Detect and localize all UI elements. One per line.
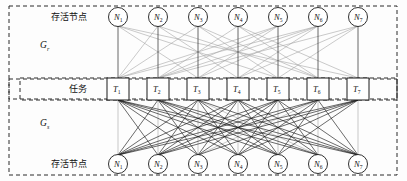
- top-node-6-sub: 6: [320, 17, 323, 23]
- task-box-3[interactable]: T3: [187, 78, 209, 100]
- bottom-node-6-sub: 6: [320, 164, 323, 170]
- top-node-7[interactable]: N7: [349, 8, 368, 27]
- upper-graph-label-sub: r: [47, 46, 50, 52]
- bottom-node-3-sub: 3: [200, 164, 203, 170]
- bottom-row-label: 存活节点: [51, 158, 87, 169]
- task-6-sub: 6: [318, 89, 321, 95]
- task-3-sub: 3: [198, 89, 201, 95]
- bottom-node-1-sub: 1: [120, 164, 123, 170]
- top-node-5-sub: 5: [280, 17, 283, 23]
- bottom-node-5-sub: 5: [280, 164, 283, 170]
- top-node-1-sub: 1: [120, 17, 123, 23]
- top-node-3[interactable]: N3: [189, 8, 208, 27]
- top-node-4[interactable]: N4: [229, 8, 248, 27]
- bottom-node-4-sub: 4: [240, 164, 243, 170]
- top-node-1[interactable]: N1: [109, 8, 128, 27]
- bottom-node-2[interactable]: N2: [149, 155, 168, 174]
- lower-graph-label-sub: s: [47, 124, 50, 130]
- top-node-6[interactable]: N6: [309, 8, 328, 27]
- bottom-node-1[interactable]: N1: [109, 155, 128, 174]
- upper-graph-label: Gr: [40, 40, 50, 52]
- task-box-5[interactable]: T5: [267, 78, 289, 100]
- bottom-node-4[interactable]: N4: [229, 155, 248, 174]
- task-box-6[interactable]: T6: [307, 78, 329, 100]
- bottom-node-2-sub: 2: [160, 164, 163, 170]
- task-box-7[interactable]: T7: [347, 78, 369, 100]
- task-box-1[interactable]: T1: [107, 78, 129, 100]
- middle-row-label: 任务: [69, 83, 87, 94]
- bottom-node-6[interactable]: N6: [309, 155, 328, 174]
- top-node-2[interactable]: N2: [149, 8, 168, 27]
- task-5-sub: 5: [278, 89, 281, 95]
- task-box-4[interactable]: T4: [227, 78, 249, 100]
- top-node-5[interactable]: N5: [269, 8, 288, 27]
- top-node-7-sub: 7: [360, 17, 363, 23]
- figure-root: N1 N2 N3 N4: [0, 0, 407, 181]
- bottom-node-3[interactable]: N3: [189, 155, 208, 174]
- task-1-sub: 1: [118, 89, 121, 95]
- bottom-node-7-sub: 7: [360, 164, 363, 170]
- task-4-sub: 4: [238, 89, 241, 95]
- task-7-sub: 7: [358, 89, 361, 95]
- top-node-3-sub: 3: [200, 17, 203, 23]
- bottom-node-7[interactable]: N7: [349, 155, 368, 174]
- task-row: T1 T2 T3 T4: [107, 78, 369, 100]
- top-node-2-sub: 2: [160, 17, 163, 23]
- top-row-label: 存活节点: [51, 11, 87, 22]
- bottom-node-5[interactable]: N5: [269, 155, 288, 174]
- lower-graph-label: Gs: [40, 118, 50, 130]
- top-node-4-sub: 4: [240, 17, 243, 23]
- task-2-sub: 2: [158, 89, 161, 95]
- bottom-node-row: N1 N2 N3 N4: [109, 155, 368, 174]
- bipartite-graph-figure: N1 N2 N3 N4: [0, 0, 407, 181]
- task-box-2[interactable]: T2: [147, 78, 169, 100]
- top-node-row: N1 N2 N3 N4: [109, 8, 368, 27]
